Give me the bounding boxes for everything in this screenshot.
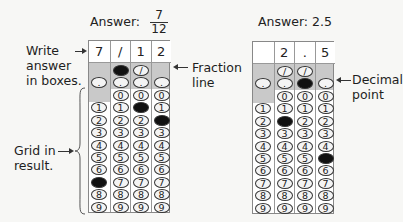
decimal-bubble[interactable]: . — [277, 78, 293, 89]
digit-bubble-5[interactable]: 5 — [154, 152, 170, 163]
digit-bubble-4[interactable]: 4 — [297, 141, 313, 152]
digit-bubble-6[interactable]: 6 — [277, 165, 293, 176]
digit-bubble-9[interactable]: 9 — [91, 202, 107, 213]
digit-bubble-7[interactable]: 7 — [255, 178, 271, 189]
decimal-bubble[interactable]: . — [297, 78, 313, 89]
digit-bubble-5[interactable]: 5 — [277, 153, 293, 164]
digit-bubble-5[interactable]: 5 — [255, 153, 271, 164]
digit-bubble-4[interactable]: 4 — [154, 140, 170, 151]
digit-bubble-8[interactable]: 8 — [133, 189, 149, 200]
digit-bubble-0[interactable]: 0 — [133, 90, 149, 101]
slash-bubble[interactable]: / — [297, 66, 313, 77]
digit-bubble-8[interactable]: 8 — [255, 190, 271, 201]
digit-bubble-8[interactable]: 8 — [91, 189, 107, 200]
digit-bubble-5[interactable]: 5 — [133, 152, 149, 163]
slash-bubble[interactable]: / — [133, 65, 149, 76]
digit-bubble-6[interactable]: 6 — [297, 165, 313, 176]
answer-box[interactable] — [253, 42, 274, 64]
answer-box[interactable]: / — [111, 41, 131, 63]
answer-box[interactable]: 5 — [316, 42, 336, 64]
decimal-bubble[interactable]: . — [113, 77, 129, 88]
digit-bubble-1[interactable]: 1 — [318, 103, 334, 114]
digit-bubble-8[interactable]: 8 — [318, 190, 334, 201]
digit-bubble-4[interactable]: 4 — [318, 141, 334, 152]
decimal-bubble[interactable]: . — [91, 77, 107, 88]
digit-bubble-2[interactable]: 2 — [255, 116, 271, 127]
digit-bubble-4[interactable]: 4 — [133, 140, 149, 151]
digit-bubble-0[interactable]: 0 — [154, 90, 170, 101]
digit-bubble-8[interactable]: 8 — [113, 189, 129, 200]
answer-box[interactable]: . — [295, 42, 315, 64]
digit-bubble-1[interactable]: 1 — [91, 102, 107, 113]
digit-bubble-3[interactable]: 3 — [297, 128, 313, 139]
digit-bubble-3[interactable]: 3 — [255, 128, 271, 139]
digit-bubble-6[interactable]: 6 — [318, 165, 334, 176]
digit-bubble-2[interactable]: 2 — [277, 116, 293, 127]
digit-bubble-7[interactable]: 7 — [297, 178, 313, 189]
digit-bubble-4[interactable]: 4 — [91, 140, 107, 151]
digit-bubble-4[interactable]: 4 — [255, 141, 271, 152]
digit-bubble-9[interactable]: 9 — [113, 202, 129, 213]
slash-bubble[interactable]: / — [113, 65, 129, 76]
digit-bubble-1[interactable]: 1 — [133, 102, 149, 113]
digit-bubble-9[interactable]: 9 — [255, 203, 271, 214]
digit-bubble-5[interactable]: 5 — [318, 153, 334, 164]
digit-bubble-8[interactable]: 8 — [154, 189, 170, 200]
digit-bubble-2[interactable]: 2 — [318, 116, 334, 127]
digit-bubble-5[interactable]: 5 — [91, 152, 107, 163]
digit-bubble-6[interactable]: 6 — [154, 164, 170, 175]
digit-bubble-1[interactable]: 1 — [255, 103, 271, 114]
digit-bubble-7[interactable]: 7 — [318, 178, 334, 189]
digit-bubble-3[interactable]: 3 — [133, 127, 149, 138]
digit-bubble-2[interactable]: 2 — [113, 115, 129, 126]
digit-bubble-4[interactable]: 4 — [277, 141, 293, 152]
write-answer-label: Write answer in boxes. — [26, 43, 82, 88]
decimal-bubble[interactable]: . — [255, 78, 271, 89]
digit-bubble-8[interactable]: 8 — [277, 190, 293, 201]
digit-bubble-0[interactable]: 0 — [297, 91, 313, 102]
digit-bubble-1[interactable]: 1 — [277, 103, 293, 114]
digit-bubble-1[interactable]: 1 — [154, 102, 170, 113]
digit-bubble-0[interactable]: 0 — [318, 91, 334, 102]
digit-bubble-9[interactable]: 9 — [297, 203, 313, 214]
digit-bubble-9[interactable]: 9 — [318, 203, 334, 214]
decimal-bubble[interactable]: . — [318, 78, 334, 89]
digit-bubble-7[interactable]: 7 — [91, 177, 107, 188]
answer-box[interactable]: 2 — [152, 41, 172, 63]
digit-bubble-6[interactable]: 6 — [91, 164, 107, 175]
digit-bubble-6[interactable]: 6 — [133, 164, 149, 175]
digit-bubble-3[interactable]: 3 — [318, 128, 334, 139]
digit-bubble-7[interactable]: 7 — [154, 177, 170, 188]
answer-box[interactable]: 2 — [275, 42, 295, 64]
digit-bubble-7[interactable]: 7 — [133, 177, 149, 188]
answer-box[interactable]: 1 — [131, 41, 151, 63]
digit-bubble-6[interactable]: 6 — [255, 165, 271, 176]
digit-bubble-4[interactable]: 4 — [113, 140, 129, 151]
digit-bubble-5[interactable]: 5 — [297, 153, 313, 164]
slash-bubble[interactable]: / — [277, 66, 293, 77]
digit-bubble-1[interactable]: 1 — [113, 102, 129, 113]
digit-bubble-3[interactable]: 3 — [154, 127, 170, 138]
digit-bubble-0[interactable]: 0 — [277, 91, 293, 102]
digit-bubble-9[interactable]: 9 — [277, 203, 293, 214]
digit-bubble-8[interactable]: 8 — [297, 190, 313, 201]
answer-box[interactable]: 7 — [89, 41, 110, 63]
digit-bubble-2[interactable]: 2 — [133, 115, 149, 126]
decimal-bubble[interactable]: . — [133, 77, 149, 88]
digit-bubble-3[interactable]: 3 — [91, 127, 107, 138]
digit-bubble-3[interactable]: 3 — [113, 127, 129, 138]
digit-bubble-7[interactable]: 7 — [277, 178, 293, 189]
digit-bubble-5[interactable]: 5 — [113, 152, 129, 163]
digit-bubble-9[interactable]: 9 — [154, 202, 170, 213]
digit-bubble-6[interactable]: 6 — [113, 164, 129, 175]
answer-fraction-1: 7 12 — [150, 9, 168, 36]
decimal-bubble[interactable]: . — [154, 77, 170, 88]
digit-bubble-3[interactable]: 3 — [277, 128, 293, 139]
digit-bubble-7[interactable]: 7 — [113, 177, 129, 188]
digit-bubble-1[interactable]: 1 — [297, 103, 313, 114]
digit-bubble-9[interactable]: 9 — [133, 202, 149, 213]
digit-bubble-2[interactable]: 2 — [154, 115, 170, 126]
digit-bubble-2[interactable]: 2 — [91, 115, 107, 126]
digit-bubble-2[interactable]: 2 — [297, 116, 313, 127]
digit-bubble-0[interactable]: 0 — [113, 90, 129, 101]
